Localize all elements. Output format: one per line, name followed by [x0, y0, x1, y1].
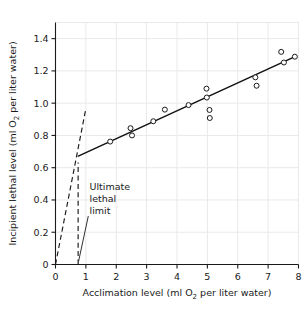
chart-page: 01234567800.20.40.60.81.01.21.4 Ultimate… [0, 0, 308, 311]
data-point-marker [279, 49, 284, 54]
axis-title-text: Acclimation level (ml O [83, 287, 193, 298]
y-tick-label: 0.8 [33, 130, 48, 141]
y-tick-label: 0.4 [33, 194, 48, 205]
annotation-line: lethal [90, 193, 117, 204]
data-point-marker [207, 107, 212, 112]
gridlines [56, 23, 299, 265]
data-point-marker [254, 83, 259, 88]
y-tick-label: 1.0 [33, 98, 48, 109]
axis-title-text: per liter water) [7, 41, 18, 115]
y-tick-label: 0.2 [33, 227, 48, 238]
incipient-lethal-level-scatter-chart: 01234567800.20.40.60.81.01.21.4 Ultimate… [0, 0, 308, 311]
x-tick-label: 6 [235, 271, 241, 282]
data-point-marker [292, 54, 297, 59]
annotation-line: Ultimate [90, 181, 131, 192]
x-axis-title: Acclimation level (ml O2 per liter water… [83, 287, 272, 301]
data-point-marker [108, 139, 113, 144]
data-point-marker [186, 103, 191, 108]
dashed-line [56, 111, 86, 265]
x-tick-label: 7 [265, 271, 271, 282]
axis-title-text: per liter water) [197, 287, 271, 298]
axis-ticks: 01234567800.20.40.60.81.01.21.4 [33, 33, 301, 281]
y-axis-title: Incipient lethal level (ml O2 per liter … [7, 41, 21, 245]
y-tick-label: 1.2 [33, 65, 48, 76]
data-point-marker [151, 119, 156, 124]
data-point-marker [207, 116, 212, 121]
data-point-marker [204, 86, 209, 91]
x-tick-label: 5 [204, 271, 210, 282]
axis-title-text: Incipient lethal level (ml O [7, 120, 18, 245]
x-tick-label: 2 [113, 271, 119, 282]
data-point-marker [281, 60, 286, 65]
data-point-marker [253, 75, 258, 80]
data-point-marker [162, 107, 167, 112]
data-point-marker [204, 95, 209, 100]
x-tick-label: 8 [295, 271, 301, 282]
x-tick-label: 0 [52, 271, 58, 282]
y-tick-label: 0.6 [33, 162, 48, 173]
y-tick-label: 0 [42, 259, 48, 270]
annotation-line: limit [90, 205, 111, 216]
x-tick-label: 1 [83, 271, 89, 282]
annotation-leader-line [79, 216, 89, 261]
data-point-marker [130, 133, 135, 138]
data-point-marker [128, 126, 133, 131]
dashed-reference-lines [56, 111, 86, 265]
x-tick-label: 3 [144, 271, 150, 282]
x-tick-label: 4 [174, 271, 180, 282]
y-tick-label: 1.4 [33, 33, 48, 44]
